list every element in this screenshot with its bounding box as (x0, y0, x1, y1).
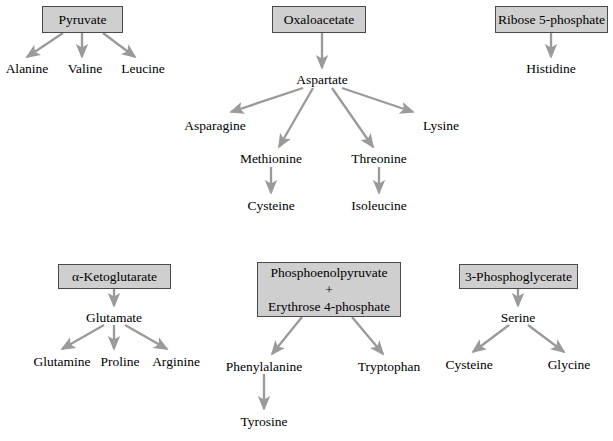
node-box-3-phosphoglycerate-line-0: 3-Phosphoglycerate (465, 268, 572, 285)
node-box-pep-erythrose-line-0: Phosphoenolpyruvate (271, 264, 388, 281)
label-isoleucine: Isoleucine (351, 199, 406, 213)
label-histidine: Histidine (526, 62, 576, 76)
arrow-pep-phenylalanine (272, 317, 302, 354)
arrow-serine-glycine (528, 325, 564, 352)
label-lysine: Lysine (423, 119, 459, 133)
label-aspartate: Aspartate (296, 73, 348, 87)
label-methionine: Methionine (240, 152, 302, 166)
node-box-oxaloacetate[interactable]: Oxaloacetate (272, 6, 366, 33)
label-cysteine-from-methionine: Cysteine (247, 199, 294, 213)
arrow-pep-tryptophan (352, 317, 383, 354)
node-box-3-phosphoglycerate[interactable]: 3-Phosphoglycerate (459, 264, 578, 289)
node-box-pyruvate-line-0: Pyruvate (59, 11, 107, 28)
label-proline: Proline (101, 355, 140, 369)
arrow-aspartate-asparagine (231, 88, 303, 112)
label-leucine: Leucine (121, 62, 164, 76)
amino-acid-biosynthesis-diagram: Pyruvate Oxaloacetate Ribose 5-phosphate… (0, 0, 613, 441)
label-asparagine: Asparagine (184, 119, 245, 133)
label-cysteine-from-serine: Cysteine (445, 358, 492, 372)
node-box-oxaloacetate-line-0: Oxaloacetate (284, 11, 354, 28)
node-box-pyruvate[interactable]: Pyruvate (42, 6, 123, 33)
label-tryptophan: Tryptophan (358, 360, 421, 374)
arrow-pyruvate-leucine (103, 33, 135, 57)
label-phenylalanine: Phenylalanine (226, 360, 302, 374)
label-threonine: Threonine (351, 152, 406, 166)
label-tyrosine: Tyrosine (240, 415, 287, 429)
node-box-ribose-5-phosphate-line-0: Ribose 5-phosphate (498, 11, 605, 28)
label-glutamine: Glutamine (34, 355, 91, 369)
label-alanine: Alanine (6, 62, 49, 76)
arrow-glutamate-glutamine (62, 325, 104, 349)
label-arginine: Arginine (152, 355, 200, 369)
node-box-alpha-ketoglutarate[interactable]: α-Ketoglutarate (58, 264, 171, 289)
node-box-ribose-5-phosphate[interactable]: Ribose 5-phosphate (495, 6, 608, 33)
arrow-aspartate-threonine (332, 88, 373, 147)
arrow-glutamate-arginine (125, 325, 167, 349)
node-box-pep-erythrose[interactable]: Phosphoenolpyruvate + Erythrose 4-phosph… (257, 262, 401, 317)
label-serine: Serine (501, 311, 536, 325)
arrow-serine-cysteine (473, 325, 509, 352)
node-box-pep-erythrose-line-2: Erythrose 4-phosphate (268, 298, 390, 315)
arrow-pyruvate-alanine (27, 33, 63, 57)
arrow-aspartate-lysine (342, 88, 413, 112)
label-valine: Valine (68, 62, 103, 76)
arrow-aspartate-methionine (279, 88, 313, 147)
node-box-pep-erythrose-line-1: + (325, 281, 333, 298)
label-glycine: Glycine (548, 358, 591, 372)
node-box-alpha-ketoglutarate-line-0: α-Ketoglutarate (72, 268, 157, 285)
label-glutamate: Glutamate (86, 311, 142, 325)
